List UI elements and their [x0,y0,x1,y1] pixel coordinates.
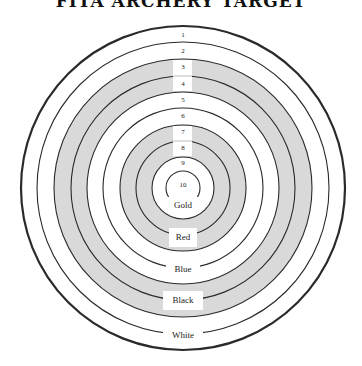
score-label-1: 1 [181,31,185,39]
zone-label-blue: Blue [175,264,192,274]
score-label-8: 8 [181,144,185,152]
score-label-6: 6 [181,112,185,120]
zone-label-black: Black [173,295,194,305]
zone-label-gold: Gold [174,200,193,210]
score-label-4: 4 [181,80,185,88]
score-label-3: 3 [181,63,185,71]
score-label-10: 10 [180,181,188,189]
score-label-7: 7 [181,128,185,136]
zone-label-red: Red [176,232,191,242]
zone-label-white: White [172,330,194,340]
archery-target-diagram: 12345678910GoldRedBlueBlackWhite [0,0,362,366]
score-label-2: 2 [181,47,185,55]
score-label-5: 5 [181,96,185,104]
score-label-9: 9 [181,159,185,167]
